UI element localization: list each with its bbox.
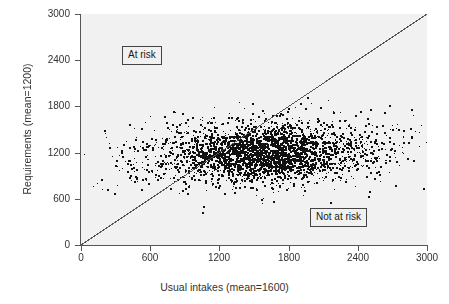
annotation-at-risk: At risk [122, 46, 162, 65]
x-tick-label-2400: 2400 [338, 253, 378, 263]
x-tick-1200 [219, 246, 220, 251]
y-axis-line [80, 14, 81, 246]
x-axis-title: Usual intakes (mean=1600) [0, 281, 449, 293]
y-tick-label-1800: 1800 [48, 101, 70, 111]
x-tick-label-600: 600 [130, 253, 170, 263]
y-axis-title: Requirements (mean=1200) [21, 13, 33, 245]
y-tick-label-2400: 2400 [48, 55, 70, 65]
x-tick-label-0: 0 [61, 253, 101, 263]
x-tick-label-1200: 1200 [199, 253, 239, 263]
y-tick-label-0: 0 [64, 240, 70, 250]
x-tick-2400 [358, 246, 359, 251]
y-tick-600 [75, 199, 80, 200]
y-tick-label-600: 600 [53, 194, 70, 204]
x-tick-600 [150, 246, 151, 251]
x-axis-line [80, 245, 428, 246]
x-tick-1800 [289, 246, 290, 251]
y-tick-label-3000: 3000 [48, 9, 70, 19]
y-tick-label-1200: 1200 [48, 148, 70, 158]
scatter-plot-figure: At risk Not at risk 06001200180024003000… [0, 0, 449, 304]
x-tick-label-1800: 1800 [269, 253, 309, 263]
x-tick-3000 [427, 246, 428, 251]
x-tick-label-3000: 3000 [407, 253, 447, 263]
annotation-not-at-risk: Not at risk [310, 208, 367, 227]
y-tick-1200 [75, 153, 80, 154]
x-tick-0 [81, 246, 82, 251]
y-tick-1800 [75, 106, 80, 107]
y-tick-3000 [75, 14, 80, 15]
y-tick-2400 [75, 60, 80, 61]
plot-area: At risk Not at risk [81, 14, 427, 245]
y-tick-0 [75, 245, 80, 246]
